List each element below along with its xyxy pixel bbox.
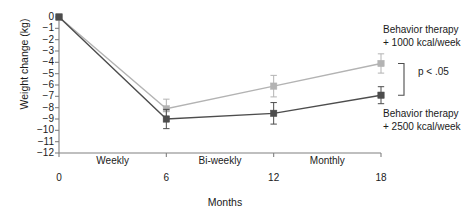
- x-tick-label: 0: [39, 172, 79, 183]
- x-tick-label: 12: [254, 172, 294, 183]
- series-1: [56, 14, 384, 129]
- legend-series-1000kcal-line1: Behavior therapy: [383, 24, 461, 37]
- weight-change-line-chart: Weight change (kg) 0−1−2−3−4−5−6−7−8−9−1…: [0, 0, 475, 218]
- legend-series-1000kcal: Behavior therapy + 1000 kcal/week: [383, 24, 461, 49]
- p-value-bracket: [398, 63, 404, 95]
- x-category-label: Bi-weekly: [175, 155, 265, 166]
- legend-series-2500kcal-line1: Behavior therapy: [383, 108, 461, 121]
- x-category-label: Monthly: [282, 155, 372, 166]
- x-tick-label: 6: [146, 172, 186, 183]
- legend-series-2500kcal-line2: + 2500 kcal/week: [383, 121, 461, 134]
- p-value-annotation: p < .05: [418, 66, 449, 77]
- x-tick-label: 18: [361, 172, 401, 183]
- x-category-label: Weekly: [68, 155, 158, 166]
- x-axis-title: Months: [55, 196, 395, 208]
- legend-series-1000kcal-line2: + 1000 kcal/week: [383, 37, 461, 50]
- legend-series-2500kcal: Behavior therapy + 2500 kcal/week: [383, 108, 461, 133]
